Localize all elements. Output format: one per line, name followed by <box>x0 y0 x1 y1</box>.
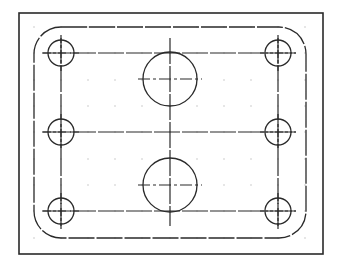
grid-dot <box>142 159 143 160</box>
grid-dot <box>115 185 116 186</box>
grid-dot <box>115 106 116 107</box>
grid-dot <box>305 27 306 28</box>
grid-dot <box>251 159 252 160</box>
grid-dot <box>88 27 89 28</box>
grid-dot <box>251 106 252 107</box>
grid-dot <box>142 80 143 81</box>
grid-dot <box>224 159 225 160</box>
grid-dot <box>115 159 116 160</box>
hole-top-right <box>260 35 296 71</box>
hole-middle-left <box>43 114 79 150</box>
grid-dot <box>34 27 35 28</box>
cad-drawing <box>0 0 341 267</box>
hole-bottom-right <box>260 193 296 229</box>
cad-drawing-canvas <box>0 0 341 267</box>
grid-dot <box>142 106 143 107</box>
grid-dot <box>197 106 198 107</box>
grid-dot <box>251 80 252 81</box>
grid-dot <box>224 106 225 107</box>
hole-middle-right <box>260 114 296 150</box>
grid-dot <box>115 80 116 81</box>
grid-dot <box>197 159 198 160</box>
grid-dot <box>88 106 89 107</box>
grid-dot <box>224 80 225 81</box>
grid-dot <box>34 238 35 239</box>
grid-dot <box>224 185 225 186</box>
grid-dot <box>305 185 306 186</box>
grid-dot <box>251 185 252 186</box>
grid-dot <box>88 159 89 160</box>
hole-top-left <box>43 35 79 71</box>
construction-lines <box>42 38 296 226</box>
hole-bottom-left <box>43 193 79 229</box>
grid-dot <box>88 185 89 186</box>
grid-dot <box>88 80 89 81</box>
grid-dot <box>305 238 306 239</box>
